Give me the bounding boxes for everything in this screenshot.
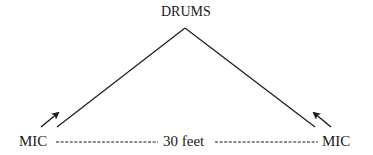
distance-label: 30 feet	[163, 134, 204, 149]
line-drums-to-left-mic	[57, 28, 185, 127]
line-drums-to-right-mic	[185, 28, 315, 127]
right-mic-arrow-icon	[314, 113, 331, 127]
diagram-canvas	[0, 0, 373, 155]
right-mic-label: MIC	[322, 134, 350, 149]
left-mic-label: MIC	[19, 134, 47, 149]
drums-label: DRUMS	[161, 4, 211, 19]
left-mic-arrow-icon	[41, 113, 58, 127]
